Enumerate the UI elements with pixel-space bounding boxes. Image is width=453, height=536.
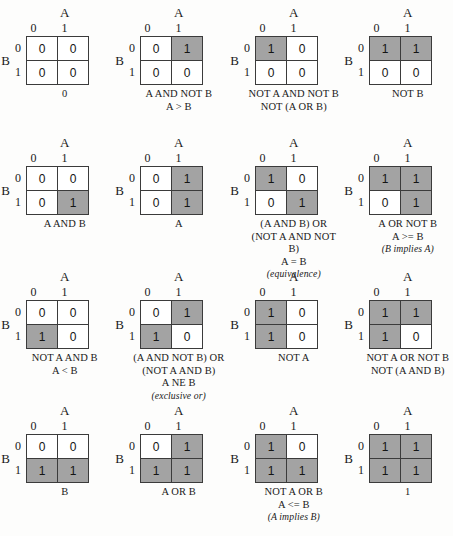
row-header-0: 0 [125, 36, 139, 60]
table-row: 00 [27, 301, 89, 325]
axis-label-b: B [343, 166, 354, 215]
column-headers: 01 [343, 285, 453, 300]
row-header-1: 1 [354, 458, 368, 482]
caption-line: A [132, 218, 226, 231]
caption-line: NOT A AND B [18, 352, 112, 365]
truth-table: 0010 [26, 300, 89, 349]
truth-cell-1-1: 1 [287, 191, 318, 215]
caption-group: (A AND NOT B) OR (NOT A AND B)A NE B(exc… [114, 352, 226, 402]
kmap-not-a-and-b: A01B010010NOT A AND BA < B [0, 270, 112, 377]
truth-cell-0-1: 0 [287, 167, 318, 191]
column-header-1: 1 [163, 285, 194, 300]
axis-label-b: B [343, 434, 354, 483]
axis-label-b: B [0, 166, 11, 215]
truth-table: 0001 [26, 166, 89, 215]
row-headers: 01 [11, 36, 25, 85]
truth-cell-1-1: 0 [401, 61, 432, 85]
truth-table: 1110 [369, 300, 432, 349]
caption-group: NOT A OR NOT BNOT (A AND B) [343, 352, 453, 377]
column-header-1: 1 [163, 21, 194, 36]
kmap-nand: A01B011110NOT A OR NOT BNOT (A AND B) [343, 270, 453, 377]
row-headers: 01 [125, 434, 139, 483]
truth-table: 1101 [369, 166, 432, 215]
truth-cell-0-0: 1 [256, 435, 287, 459]
axis-label-a: A [343, 136, 453, 149]
column-header-1: 1 [392, 419, 423, 434]
column-headers: 01 [229, 285, 341, 300]
truth-cell-0-1: 1 [172, 435, 203, 459]
axis-label-b: B [114, 434, 125, 483]
caption-line: NOT A [247, 352, 341, 365]
truth-cell-0-0: 1 [256, 37, 287, 61]
table-row: 10 [370, 325, 432, 349]
column-header-0: 0 [18, 151, 49, 166]
axis-label-b: B [229, 166, 240, 215]
kmap-equivalence: A01B011001(A AND B) OR (NOT A AND NOT B)… [229, 136, 341, 281]
truth-cell-1-0: 1 [141, 325, 172, 349]
axis-label-a: A [343, 6, 453, 19]
truth-cell-1-0: 0 [370, 61, 401, 85]
truth-cell-1-0: 0 [256, 191, 287, 215]
table-row: 11 [370, 167, 432, 191]
column-header-0: 0 [18, 285, 49, 300]
truth-cell-1-1: 0 [287, 61, 318, 85]
caption-line: NOT (A AND B) [361, 365, 453, 378]
axis-label-b: B [343, 300, 354, 349]
truth-cell-1-1: 1 [401, 191, 432, 215]
truth-cell-1-1: 0 [287, 325, 318, 349]
column-headers: 01 [114, 285, 226, 300]
table-row: 11 [141, 459, 203, 483]
column-header-0: 0 [132, 285, 163, 300]
table-row: 00 [27, 435, 89, 459]
axis-label-a: A [229, 404, 341, 417]
row-header-1: 1 [354, 60, 368, 84]
kmap-not-a-or-b: A01B011011NOT A OR BA <= B(A implies B) [229, 404, 341, 524]
caption-group: NOT A [229, 352, 341, 365]
column-header-1: 1 [278, 285, 309, 300]
row-header-0: 0 [354, 36, 368, 60]
row-header-0: 0 [125, 166, 139, 190]
kmap-not-a-and-not-b: A01B011000NOT A AND NOT BNOT (A OR B) [229, 6, 341, 113]
kmap-const-0: A01B0100000 [0, 6, 112, 101]
row-headers: 01 [240, 300, 254, 349]
column-header-1: 1 [49, 419, 80, 434]
table-row: 11 [370, 301, 432, 325]
caption-group: B [0, 486, 112, 499]
truth-cell-1-0: 1 [27, 325, 58, 349]
truth-cell-1-0: 1 [256, 325, 287, 349]
kmap-a-and-not-b: A01B010100A AND NOT BA > B [114, 6, 226, 113]
column-headers: 01 [229, 21, 341, 36]
column-header-0: 0 [247, 151, 278, 166]
axis-label-a: A [229, 136, 341, 149]
caption-line: (B implies A) [361, 243, 453, 256]
column-headers: 01 [114, 419, 226, 434]
column-header-0: 0 [361, 285, 392, 300]
truth-cell-1-0: 0 [27, 191, 58, 215]
caption-group: A [114, 218, 226, 231]
truth-cell-0-1: 1 [401, 301, 432, 325]
truth-cell-1-1: 1 [287, 459, 318, 483]
column-header-0: 0 [361, 419, 392, 434]
axis-label-a: A [343, 270, 453, 283]
table-row: 10 [256, 435, 318, 459]
axis-label-b: B [114, 166, 125, 215]
truth-cell-0-1: 0 [58, 435, 89, 459]
truth-cell-0-1: 0 [58, 301, 89, 325]
truth-cell-0-0: 1 [370, 435, 401, 459]
caption-line: NOT A AND NOT B [247, 88, 341, 101]
row-headers: 01 [125, 166, 139, 215]
column-header-1: 1 [278, 419, 309, 434]
truth-cell-0-0: 0 [141, 167, 172, 191]
row-header-1: 1 [125, 190, 139, 214]
axis-label-a: A [114, 404, 226, 417]
row-headers: 01 [11, 300, 25, 349]
table-row: 11 [370, 435, 432, 459]
truth-table: 1111 [369, 434, 432, 483]
column-header-0: 0 [361, 151, 392, 166]
kmap-exclusive-or: A01B010110(A AND NOT B) OR (NOT A AND B)… [114, 270, 226, 402]
truth-cell-0-0: 0 [27, 435, 58, 459]
table-row: 11 [256, 459, 318, 483]
row-header-0: 0 [11, 300, 25, 324]
truth-cell-0-1: 1 [172, 301, 203, 325]
